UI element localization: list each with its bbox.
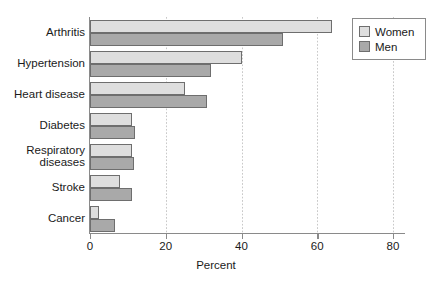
x-tick-label-60: 60 (311, 240, 324, 252)
bar-men-respiratory-diseases (90, 157, 134, 170)
gridline-20 (166, 17, 167, 233)
bar-women-cancer (90, 206, 99, 219)
category-label-hypertension: Hypertension (17, 57, 85, 70)
legend-swatch-men-icon (359, 41, 370, 52)
bar-women-arthritis (90, 20, 332, 33)
category-label-respiratory-diseases: Respiratory diseases (26, 144, 85, 169)
legend-swatch-women-icon (359, 26, 370, 37)
legend-label-women: Women (375, 26, 414, 38)
x-tick-label-0: 0 (87, 240, 93, 252)
bar-men-cancer (90, 219, 115, 232)
x-axis-title: Percent (0, 259, 432, 271)
bar-women-diabetes (90, 113, 132, 126)
x-tick-label-20: 20 (159, 240, 172, 252)
bar-men-arthritis (90, 33, 283, 46)
category-label-arthritis: Arthritis (46, 26, 85, 39)
x-tick-0 (90, 234, 91, 239)
x-axis-spine (89, 233, 405, 234)
category-label-stroke: Stroke (52, 181, 85, 194)
category-label-cancer: Cancer (48, 212, 85, 225)
x-tick-label-40: 40 (235, 240, 248, 252)
bar-women-stroke (90, 175, 120, 188)
legend-item-men[interactable]: Men (359, 39, 419, 54)
gridline-40 (242, 17, 243, 233)
bar-men-heart-disease (90, 95, 207, 108)
x-tick-80 (393, 234, 394, 239)
bar-women-respiratory-diseases (90, 144, 132, 157)
gridline-60 (317, 17, 318, 233)
x-tick-label-80: 80 (387, 240, 400, 252)
bar-men-hypertension (90, 64, 211, 77)
bar-men-stroke (90, 188, 132, 201)
bar-women-heart-disease (90, 82, 185, 95)
legend: Women Men (352, 18, 426, 60)
bar-chart: ArthritisHypertensionHeart diseaseDiabet… (0, 0, 432, 283)
x-tick-40 (242, 234, 243, 239)
category-label-diabetes: Diabetes (40, 119, 85, 132)
x-tick-60 (317, 234, 318, 239)
x-tick-20 (166, 234, 167, 239)
bar-men-diabetes (90, 126, 135, 139)
category-label-heart-disease: Heart disease (14, 88, 85, 101)
legend-item-women[interactable]: Women (359, 24, 419, 39)
bar-women-hypertension (90, 51, 242, 64)
legend-label-men: Men (375, 41, 397, 53)
